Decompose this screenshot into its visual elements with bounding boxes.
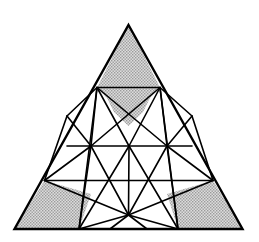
geometric-figure-container [0,0,259,242]
triangle-diagram-svg [0,0,259,242]
diag-M2-BM [129,146,130,215]
